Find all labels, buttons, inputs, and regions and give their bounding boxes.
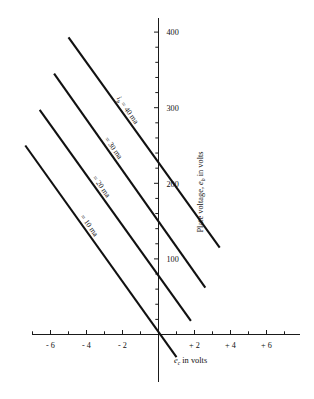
y-axis-title: Plate voltage, eb in volts [196,151,206,232]
svg-text:Plate voltage, eb in volts: Plate voltage, eb in volts [196,151,206,232]
x-tick-label: + 2 [189,341,200,350]
y-tick-label: 400 [167,28,179,37]
constant-current-curves [25,37,219,357]
x-tick-label: + 4 [225,341,236,350]
chart-canvas: - 6- 4- 2+ 2+ 4+ 6 100200300400 ib = 40 … [0,0,314,399]
curve-label-text: ib = 40 ma [114,94,141,126]
x-tick-label: - 6 [46,341,55,350]
svg-text:ec in volts: ec in volts [174,356,207,366]
curve-labels: ib = 40 ma= 30 ma= 20 ma= 10 ma [78,94,141,238]
x-tick-label: - 4 [82,341,91,350]
y-axis-title-rest: in volts [196,151,205,178]
x-tick-label: + 6 [261,341,272,350]
x-axis-title-rest: in volts [180,356,207,365]
y-tick-label: 100 [167,255,179,264]
y-axis-tick-labels: 100200300400 [167,28,179,264]
y-tick-label: 300 [167,104,179,113]
y-axis-title-lead: Plate voltage, [196,185,205,233]
x-axis-title: ec in volts [174,356,207,366]
curve-label-group: ib = 40 ma [114,94,141,126]
x-tick-label: - 2 [118,341,127,350]
constant-current-characteristic-figure: - 6- 4- 2+ 2+ 4+ 6 100200300400 ib = 40 … [0,0,314,399]
